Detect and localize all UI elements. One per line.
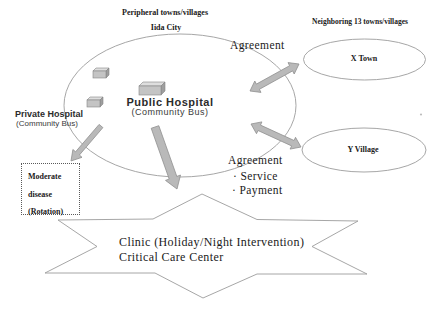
iida-city-header: Iida City bbox=[151, 24, 181, 33]
moderate-disease-line: Moderate bbox=[28, 168, 79, 186]
speck-dot bbox=[420, 113, 422, 115]
agreement-payment-item: · Payment bbox=[232, 184, 283, 197]
x-town-label: X Town bbox=[351, 55, 377, 64]
community-bus-icon bbox=[93, 68, 109, 78]
y-village-label: Y Village bbox=[347, 146, 378, 155]
agreement-service-item: · Service bbox=[233, 170, 278, 183]
agreement-top-label: Agreement bbox=[230, 39, 285, 52]
private-hospital-sublabel: (Community Bus) bbox=[16, 120, 78, 129]
moderate-disease-line: (Rotation) bbox=[28, 203, 79, 221]
critical-care-label: Critical Care Center bbox=[119, 251, 224, 264]
moderate-disease-line: disease bbox=[28, 186, 79, 204]
community-bus-icon bbox=[139, 82, 165, 95]
peripheral-header: Peripheral towns/villages bbox=[122, 9, 208, 18]
clinic-label: Clinic (Holiday/Night Intervention) bbox=[119, 236, 304, 249]
moderate-disease-box: Moderate disease (Rotation) bbox=[21, 163, 80, 215]
diagram-shapes bbox=[0, 0, 429, 313]
neighboring-header: Neighboring 13 towns/villages bbox=[312, 18, 408, 26]
agreement-bottom-label: Agreement bbox=[228, 154, 283, 167]
community-bus-icon bbox=[87, 97, 103, 107]
diagram-canvas: Peripheral towns/villages Iida City Neig… bbox=[0, 0, 429, 313]
public-hospital-sublabel: (Community Bus) bbox=[131, 108, 208, 118]
